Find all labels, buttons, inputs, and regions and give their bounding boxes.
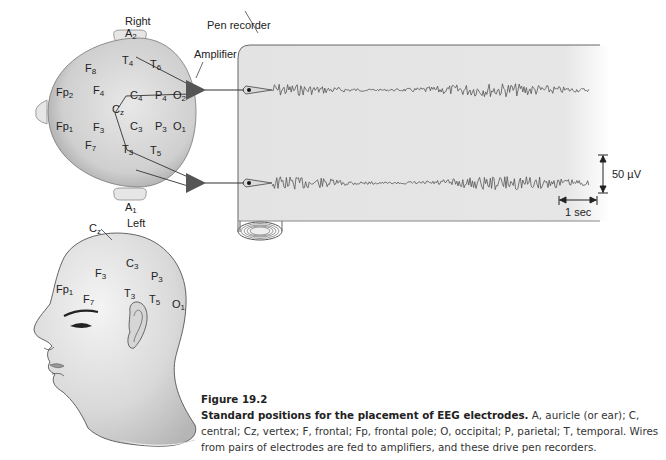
electrode-label: P3 <box>151 271 163 284</box>
electrode-label: T6 <box>150 59 161 72</box>
amplifier-1 <box>186 80 206 100</box>
electrode-label: Fp2 <box>56 87 73 100</box>
eeg-figure: Right Left Amplifier Pen recorder 50 µV … <box>0 0 666 460</box>
electrode-label: F3 <box>93 122 104 135</box>
electrode-label: P3 <box>155 121 167 134</box>
electrode-label: F7 <box>83 294 94 307</box>
electrode-label: Cz <box>112 104 124 117</box>
electrode-label: F8 <box>85 63 96 76</box>
electrode-label: F3 <box>95 268 106 281</box>
figure-caption: Figure 19.2 Standard positions for the p… <box>201 391 661 455</box>
figure-number: Figure 19.2 <box>201 391 661 407</box>
left-label: Left <box>127 218 145 229</box>
voltage-scale-label: 50 µV <box>612 169 641 180</box>
electrode-label: A1 <box>125 202 137 215</box>
time-scale-label: 1 sec <box>565 207 591 218</box>
electrode-label: Fp1 <box>56 284 73 297</box>
electrode-label: T5 <box>149 294 160 307</box>
head-side-view <box>34 229 196 446</box>
paper-roll <box>238 221 282 240</box>
electrode-label: F7 <box>85 140 96 153</box>
pen-recorder-paper <box>238 44 620 240</box>
figure-title: Standard positions for the placement of … <box>201 409 528 421</box>
electrode-label: O1 <box>173 121 186 134</box>
electrode-label: C4 <box>130 90 142 103</box>
electrode-label: O2 <box>173 90 186 103</box>
electrode-label: C3 <box>130 121 142 134</box>
electrode-label: T3 <box>122 144 133 157</box>
right-label: Right <box>125 16 151 27</box>
amplifier-2 <box>186 173 206 193</box>
electrode-label: P4 <box>155 90 167 103</box>
electrode-label: Fp1 <box>56 121 73 134</box>
electrode-label: T4 <box>122 55 133 68</box>
electrode-label: T3 <box>124 288 135 301</box>
amplifier-label: Amplifier <box>194 49 237 60</box>
pen-recorder-label: Pen recorder <box>207 20 271 31</box>
electrode-label: Cz <box>89 223 101 236</box>
electrode-label: F4 <box>93 85 104 98</box>
electrode-label: T5 <box>150 145 161 158</box>
electrode-label: O1 <box>172 299 185 312</box>
electrode-label: C3 <box>126 258 138 271</box>
electrode-label: A2 <box>125 28 137 41</box>
